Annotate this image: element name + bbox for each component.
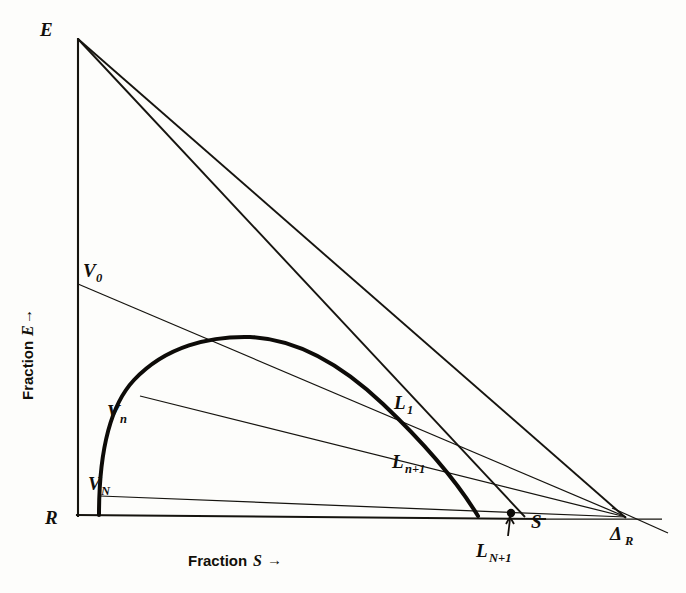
axes-group [77,39,662,519]
label-R: R [44,507,58,528]
y-axis-title-text: Fraction [19,341,36,400]
label-Ln1-glyph: L [391,451,404,472]
LN1-point-marker [507,509,515,517]
x-axis-title-text: Fraction [188,552,247,569]
label-E: E [39,19,53,40]
label-S: S [531,511,542,532]
x-axis-arrow-icon: → [267,551,282,568]
label-V0: V 0 [83,260,103,285]
tie-lines-group [78,284,668,533]
label-V0-subscript: 0 [96,271,103,285]
label-V0-glyph: V [83,260,97,281]
binodal-curve [99,337,478,516]
y-axis-variable-text: E [19,325,36,337]
x-axis-variable-text: S [253,552,262,569]
label-VN-subscript: N [100,484,111,498]
label-L1-subscript: 1 [407,403,413,417]
label-Vn-subscript: n [120,412,127,426]
x-axis-title-group: Fraction S → [188,551,282,569]
y-axis-arrow-icon: → [18,309,35,324]
operating-lines-group [78,39,626,518]
label-Ln1: L n+1 [391,451,425,476]
label-delta-R: Δ R [609,523,633,548]
y-axis-title-group: Fraction E → [18,309,36,400]
extraction-stage-diagram: E R S Δ R V 0 V n V N L 1 L n+1 L N+1 Fr… [0,0,686,593]
x-axis-line [77,515,545,519]
label-VN-glyph: V [88,473,102,494]
label-LN1-subscript: N+1 [488,551,511,565]
label-L1-glyph: L [393,392,406,413]
label-LN1: L N+1 [475,540,511,565]
label-L1: L 1 [393,392,413,417]
label-Vn-glyph: V [107,401,121,422]
label-Ln1-subscript: n+1 [405,462,425,476]
label-delta-glyph: Δ [609,523,622,544]
label-LN1-glyph: L [475,540,488,561]
operating-line-E-to-deltaR [78,39,626,518]
tie-line-VN [100,496,626,517]
label-delta-subscript: R [624,534,633,548]
